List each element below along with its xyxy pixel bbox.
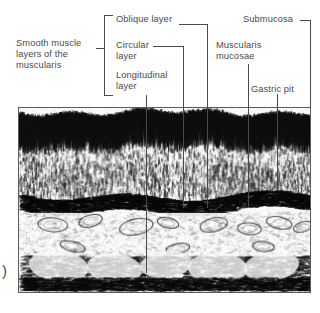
inner-leader-oblique: [207, 108, 208, 208]
bracket-spine: [104, 15, 105, 96]
leader-oblique-vertical: [207, 24, 208, 108]
stomach-wall-micrograph: [18, 107, 311, 293]
bracket-bottom-arm: [104, 95, 113, 96]
micrograph-canvas: [19, 108, 310, 292]
label-smooth-muscle-group: Smooth muscle layers of the muscularis: [16, 38, 81, 72]
bracket-top-arm: [104, 15, 113, 16]
leader-circular-horizontal: [153, 46, 184, 47]
label-submucosa: Submucosa: [243, 14, 293, 25]
leader-oblique-horizontal: [179, 24, 208, 25]
inner-leader-circular: [183, 108, 184, 208]
leader-muscularis-vertical: [248, 64, 249, 108]
leader-gastric-pit-vertical: [277, 94, 278, 108]
inner-leader-muscularis: [248, 108, 249, 208]
inner-leader-longitudinal: [146, 108, 147, 273]
leader-circular-vertical: [183, 46, 184, 108]
label-longitudinal-layer: Longitudinal layer: [116, 70, 167, 92]
label-circular-layer: Circular layer: [116, 40, 149, 62]
label-oblique-layer: Oblique layer: [116, 14, 172, 25]
leader-submucosa-vertical: [310, 20, 311, 108]
bracket-stub: [96, 48, 104, 49]
label-muscularis-mucosae: Muscularis mucosae: [216, 40, 261, 62]
label-gastric-pit: Gastric pit: [251, 84, 294, 95]
inner-leader-gastric-pit: [277, 108, 278, 188]
paren-mark: ): [2, 262, 7, 279]
smooth-muscle-bracket: [104, 15, 113, 96]
